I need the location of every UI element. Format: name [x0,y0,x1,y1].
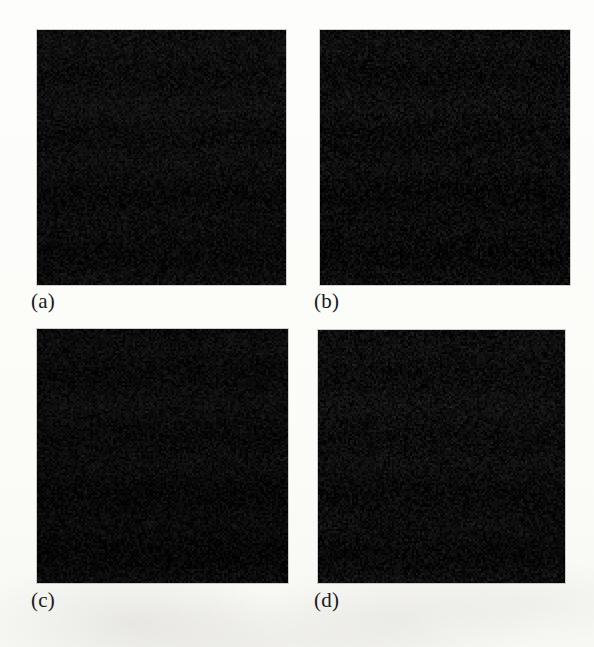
panel-d-image [318,330,565,583]
panel-a-image [37,30,286,285]
panel-label-d: (d) [314,590,339,611]
panel-label-c: (c) [31,590,55,611]
figure-panel-b[interactable] [320,30,570,285]
figure-panel-a[interactable] [37,30,286,285]
panel-c-image [37,329,288,583]
panel-b-image [320,30,570,285]
panel-label-b: (b) [314,291,339,312]
figure-panel-c[interactable] [37,329,288,583]
panel-label-a: (a) [31,291,55,312]
figure-panel-d[interactable] [318,330,565,583]
figure-panel-grid: (a) (b) (c) (d) [0,0,594,647]
